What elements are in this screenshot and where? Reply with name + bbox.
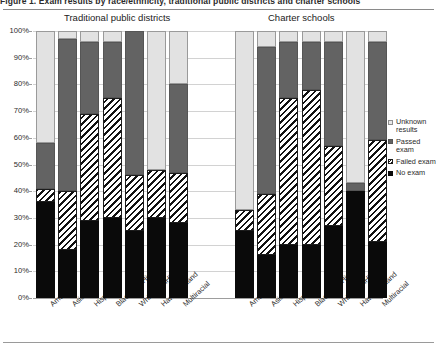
bar-charter-schools-amerind[interactable] xyxy=(235,31,254,298)
bar-segment-passed[interactable] xyxy=(346,183,365,191)
bar-segment-passed[interactable] xyxy=(257,47,276,194)
bar-charter-schools-hispanic[interactable] xyxy=(279,31,298,298)
y-axis-tick-label: 20% xyxy=(0,240,29,249)
bar-segment-noexam[interactable] xyxy=(257,255,276,298)
bar-segment-noexam[interactable] xyxy=(147,218,166,298)
bar-segment-failed[interactable] xyxy=(103,98,122,218)
y-axis-tick-label: 80% xyxy=(0,79,29,88)
figure-caption: Figure 1. Exam results by race/ethnicity… xyxy=(0,0,437,6)
caption-divider xyxy=(3,9,434,10)
legend-item-noexam[interactable]: No exam xyxy=(388,169,437,177)
bar-segment-noexam[interactable] xyxy=(169,223,188,298)
bar-segment-passed[interactable] xyxy=(103,42,122,98)
y-axis-tick-mark xyxy=(29,58,32,59)
bar-segment-noexam[interactable] xyxy=(80,221,99,298)
plot-area: 0%10%20%30%40%50%60%70%80%90%100%AmerInd… xyxy=(33,31,383,298)
bar-segment-failed[interactable] xyxy=(80,114,99,221)
bar-segment-noexam[interactable] xyxy=(279,245,298,298)
bar-segment-unknown[interactable] xyxy=(235,31,254,210)
bar-traditional-public-districts-black_nonhisp[interactable] xyxy=(103,31,122,298)
bar-segment-unknown[interactable] xyxy=(368,31,387,42)
y-axis-tick-mark xyxy=(29,111,32,112)
y-axis-tick-label: 60% xyxy=(0,133,29,142)
bar-traditional-public-districts-hawpacisland[interactable] xyxy=(147,31,166,298)
bar-segment-passed[interactable] xyxy=(125,31,144,175)
bar-segment-failed[interactable] xyxy=(36,189,55,202)
bar-segment-unknown[interactable] xyxy=(36,31,55,143)
bar-segment-unknown[interactable] xyxy=(58,31,77,39)
y-axis-tick-label: 0% xyxy=(0,293,29,302)
bar-segment-failed[interactable] xyxy=(302,90,321,245)
bar-segment-passed[interactable] xyxy=(58,39,77,191)
chart-figure: Figure 1. Exam results by race/ethnicity… xyxy=(0,0,437,351)
bar-traditional-public-districts-amerind[interactable] xyxy=(36,31,55,298)
bar-segment-unknown[interactable] xyxy=(147,31,166,170)
bar-segment-unknown[interactable] xyxy=(169,31,188,84)
y-axis-tick-mark xyxy=(29,245,32,246)
bar-segment-passed[interactable] xyxy=(80,42,99,114)
bar-segment-failed[interactable] xyxy=(368,140,387,241)
y-axis-tick-mark xyxy=(29,31,32,32)
bar-segment-unknown[interactable] xyxy=(80,31,99,42)
bar-segment-passed[interactable] xyxy=(36,143,55,188)
bar-traditional-public-districts-asian[interactable] xyxy=(58,31,77,298)
bar-charter-schools-black_nonhisp[interactable] xyxy=(302,31,321,298)
y-axis-tick-mark xyxy=(29,271,32,272)
bar-segment-failed[interactable] xyxy=(324,146,343,226)
bar-segment-noexam[interactable] xyxy=(103,218,122,298)
bar-segment-passed[interactable] xyxy=(324,42,343,146)
bar-segment-failed[interactable] xyxy=(279,98,298,245)
bar-segment-passed[interactable] xyxy=(302,42,321,90)
bar-traditional-public-districts-hispanic[interactable] xyxy=(80,31,99,298)
bar-segment-noexam[interactable] xyxy=(346,191,365,298)
bar-segment-noexam[interactable] xyxy=(324,226,343,298)
y-axis-tick-mark xyxy=(29,218,32,219)
bar-segment-noexam[interactable] xyxy=(235,231,254,298)
y-axis-tick-mark xyxy=(29,298,32,299)
bar-traditional-public-districts-multiracial[interactable] xyxy=(169,31,188,298)
y-axis-tick-label: 40% xyxy=(0,186,29,195)
bar-segment-passed[interactable] xyxy=(368,42,387,141)
bar-segment-noexam[interactable] xyxy=(302,245,321,298)
legend-label: No exam xyxy=(388,169,437,177)
y-axis-tick-mark xyxy=(29,138,32,139)
legend-label: Unknown results xyxy=(388,118,437,135)
bar-segment-noexam[interactable] xyxy=(125,231,144,298)
y-axis-tick-mark xyxy=(29,84,32,85)
bar-segment-failed[interactable] xyxy=(58,191,77,250)
bar-segment-noexam[interactable] xyxy=(36,202,55,298)
bar-segment-failed[interactable] xyxy=(125,175,144,231)
bar-charter-schools-multiracial[interactable] xyxy=(368,31,387,298)
bar-charter-schools-asian[interactable] xyxy=(257,31,276,298)
bar-segment-passed[interactable] xyxy=(169,84,188,172)
bar-charter-schools-hawpacisland[interactable] xyxy=(346,31,365,298)
passed-swatch xyxy=(388,139,393,144)
bar-segment-noexam[interactable] xyxy=(368,242,387,298)
bar-segment-unknown[interactable] xyxy=(346,31,365,183)
bar-segment-failed[interactable] xyxy=(235,210,254,231)
bar-charter-schools-white_nonhisp[interactable] xyxy=(324,31,343,298)
legend-item-passed[interactable]: Passed exam xyxy=(388,138,437,155)
bar-segment-failed[interactable] xyxy=(147,170,166,218)
bar-segment-unknown[interactable] xyxy=(257,31,276,47)
bar-segment-unknown[interactable] xyxy=(324,31,343,42)
panel-title-charter: Charter schools xyxy=(268,12,335,23)
panel-title-traditional: Traditional public districts xyxy=(64,12,170,23)
y-axis-tick-label: 10% xyxy=(0,266,29,275)
bar-segment-failed[interactable] xyxy=(257,194,276,255)
y-axis-tick-mark xyxy=(29,191,32,192)
bar-segment-noexam[interactable] xyxy=(58,250,77,298)
chart-legend: Unknown resultsPassed examFailed examNo … xyxy=(388,118,437,180)
bar-segment-passed[interactable] xyxy=(279,42,298,98)
legend-item-failed[interactable]: Failed exam xyxy=(388,158,437,166)
legend-item-unknown[interactable]: Unknown results xyxy=(388,118,437,135)
bar-traditional-public-districts-white_nonhisp[interactable] xyxy=(125,31,144,298)
bar-segment-unknown[interactable] xyxy=(302,31,321,42)
y-axis-tick-label: 50% xyxy=(0,160,29,169)
y-axis-tick-label: 100% xyxy=(0,26,29,35)
bar-segment-unknown[interactable] xyxy=(103,31,122,42)
y-axis-tick-label: 90% xyxy=(0,53,29,62)
failed-swatch xyxy=(388,159,393,164)
bar-segment-unknown[interactable] xyxy=(279,31,298,42)
bar-segment-failed[interactable] xyxy=(169,173,188,224)
